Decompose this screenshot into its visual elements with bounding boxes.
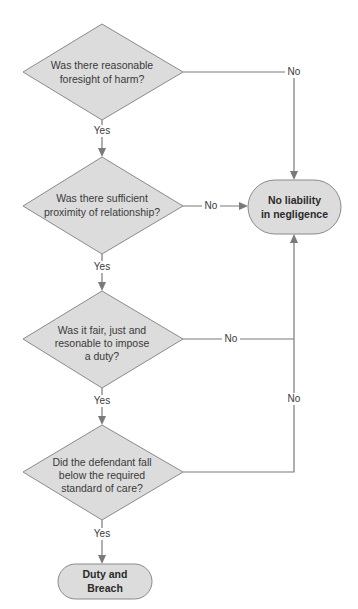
edge-label-yes: Yes	[94, 125, 110, 136]
arrow-up-icon	[290, 234, 298, 243]
arrow-down-icon	[98, 555, 106, 564]
terminal-no-liability: No liability in negligence	[248, 180, 341, 234]
edge-label-no: No	[288, 66, 301, 77]
flowchart: Yes No Yes No Yes No Yes	[0, 0, 358, 609]
terminal-shape	[248, 180, 341, 234]
diamond-shape	[23, 24, 183, 120]
decision-proximity: Was there sufficient proximity of relati…	[23, 157, 183, 254]
edge-d2-yes: Yes	[93, 254, 111, 291]
edge-d1-yes: Yes	[93, 120, 111, 157]
edge-label-no: No	[205, 200, 218, 211]
edge-label-yes: Yes	[94, 528, 110, 539]
edge-d1-no: No	[183, 66, 303, 180]
terminal-text: Duty and	[83, 568, 128, 580]
arrow-down-icon	[290, 171, 298, 180]
edge-d2-no: No	[183, 200, 248, 212]
decision-text: a duty?	[85, 350, 120, 362]
edge-d3-no: No	[183, 333, 294, 345]
edge-label-yes: Yes	[94, 395, 110, 406]
edge-label-no: No	[225, 333, 238, 344]
decision-text: foresight of harm?	[60, 73, 145, 85]
decision-text: proximity of relationship?	[44, 206, 160, 218]
arrow-down-icon	[98, 148, 106, 157]
edge-d4-no: No	[183, 234, 303, 472]
edge-d4-yes: Yes	[93, 520, 111, 564]
decision-text: below the required	[59, 469, 146, 481]
decision-fair-just-reasonable: Was it fair, just and resonable to impos…	[23, 291, 183, 388]
terminal-text: No liability	[268, 194, 321, 206]
arrow-down-icon	[98, 282, 106, 291]
edge-d3-yes: Yes	[93, 388, 111, 425]
edge-label-no: No	[288, 393, 301, 404]
terminal-text: Breach	[87, 582, 123, 594]
decision-foresight: Was there reasonable foresight of harm?	[23, 24, 183, 120]
decision-text: Was there reasonable	[51, 59, 153, 71]
terminal-duty-and-breach: Duty and Breach	[58, 564, 152, 599]
terminal-text: in negligence	[261, 208, 328, 220]
decision-standard-of-care: Did the defendant fall below the require…	[23, 425, 183, 520]
arrow-right-icon	[239, 202, 248, 210]
arrow-down-icon	[98, 416, 106, 425]
edge-label-yes: Yes	[94, 261, 110, 272]
decision-text: Did the defendant fall	[52, 456, 151, 468]
decision-text: standard of care?	[61, 482, 143, 494]
decision-text: resonable to impose	[55, 337, 150, 349]
decision-text: Was it fair, just and	[58, 324, 146, 336]
decision-text: Was there sufficient	[56, 192, 148, 204]
